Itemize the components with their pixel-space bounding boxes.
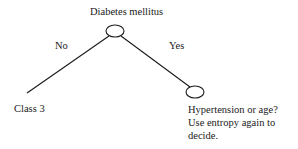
root-label: Diabetes mellitus — [90, 5, 163, 18]
right-node — [186, 86, 204, 98]
right-node-line-2: Use entropy again to — [188, 116, 278, 129]
edge-no-label: No — [55, 39, 68, 52]
right-node-line-3: decide. — [188, 129, 278, 142]
edge-yes-label: Yes — [169, 39, 184, 52]
root-node — [106, 25, 124, 37]
edge-no — [27, 36, 109, 93]
right-node-line-1: Hypertension or age? — [188, 103, 278, 116]
leaf-class-3: Class 3 — [14, 102, 45, 115]
right-node-text: Hypertension or age? Use entropy again t… — [188, 103, 278, 142]
